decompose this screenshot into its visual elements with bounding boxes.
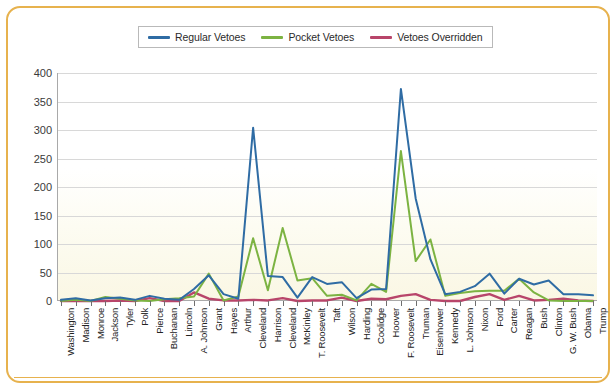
x-axis-tick: [61, 301, 62, 306]
x-axis-tick: [445, 301, 446, 306]
x-axis-tick: [386, 301, 387, 306]
series-line: [61, 151, 593, 301]
x-axis-tick: [238, 301, 239, 306]
x-axis-tick: [593, 301, 594, 306]
x-tick-label: Grant: [213, 308, 224, 331]
x-tick-label: Lincoln: [183, 308, 194, 337]
x-axis-tick: [76, 301, 77, 306]
legend-entry[interactable]: Regular Vetoes: [148, 31, 245, 43]
legend-entry[interactable]: Vetoes Overridden: [370, 31, 482, 43]
x-tick-label: Taft: [331, 308, 342, 323]
x-axis-tick: [150, 301, 151, 306]
legend-label: Regular Vetoes: [175, 31, 245, 43]
x-axis-ticks: [57, 301, 597, 307]
x-tick-label: Clinton: [553, 308, 564, 336]
x-axis-tick: [120, 301, 121, 306]
y-tick-label: 400: [6, 67, 52, 79]
x-tick-label: Hayes: [228, 308, 239, 334]
x-tick-label: Wilson: [346, 308, 357, 335]
x-axis-tick: [563, 301, 564, 306]
x-tick-label: Eisenhower: [434, 308, 445, 356]
legend-swatch-icon: [261, 36, 283, 39]
y-tick-label: 100: [6, 238, 52, 250]
y-tick-label: 0: [6, 295, 52, 307]
x-tick-label: Trump: [597, 308, 608, 334]
x-axis-tick: [312, 301, 313, 306]
y-tick-label: 350: [6, 96, 52, 108]
x-axis-tick: [105, 301, 106, 306]
x-tick-label: Hoover: [390, 308, 401, 337]
x-axis-tick: [401, 301, 402, 306]
x-axis-tick: [224, 301, 225, 306]
chart-legend: Regular VetoesPocket VetoesVetoes Overri…: [138, 26, 493, 48]
legend-label: Vetoes Overridden: [397, 31, 482, 43]
x-tick-label: T. Roosevelt: [316, 308, 327, 358]
x-axis-tick: [327, 301, 328, 306]
x-tick-label: Tyler: [124, 308, 135, 328]
x-axis-tick: [416, 301, 417, 306]
x-axis-tick: [430, 301, 431, 306]
x-tick-label: L. Johnson: [464, 308, 475, 352]
x-axis-tick: [135, 301, 136, 306]
x-axis-tick: [578, 301, 579, 306]
x-tick-label: Harrison: [272, 308, 283, 342]
x-tick-label: Cleveland: [287, 308, 298, 348]
x-tick-label: Buchanan: [168, 308, 179, 349]
y-tick-label: 150: [6, 210, 52, 222]
x-tick-label: Obama: [582, 308, 593, 338]
x-axis-tick: [371, 301, 372, 306]
x-axis-tick: [504, 301, 505, 306]
chart-figure: Regular VetoesPocket VetoesVetoes Overri…: [0, 0, 616, 389]
x-tick-label: Cleveland: [257, 308, 268, 348]
y-tick-label: 200: [6, 181, 52, 193]
x-tick-label: Reagan: [523, 308, 534, 340]
x-axis-tick: [194, 301, 195, 306]
x-tick-label: Arthur: [242, 308, 253, 333]
y-axis: 050100150200250300350400: [0, 73, 52, 301]
x-tick-label: McKinley: [301, 308, 312, 345]
x-axis-tick: [297, 301, 298, 306]
x-tick-label: Pierce: [154, 308, 165, 334]
legend-entry[interactable]: Pocket Vetoes: [261, 31, 354, 43]
x-tick-label: A. Johnson: [198, 308, 209, 354]
x-tick-label: Coolidge: [375, 308, 386, 344]
y-tick-label: 300: [6, 124, 52, 136]
x-tick-label: Monroe: [95, 308, 106, 339]
x-axis-tick: [357, 301, 358, 306]
x-axis-tick: [283, 301, 284, 306]
x-axis-tick: [475, 301, 476, 306]
x-tick-label: Washington: [65, 308, 76, 356]
legend-swatch-icon: [370, 36, 392, 39]
x-axis-tick: [519, 301, 520, 306]
x-tick-label: G. W. Bush: [567, 308, 578, 354]
x-axis-tick: [534, 301, 535, 306]
x-tick-label: Madison: [80, 308, 91, 343]
x-tick-label: Harding: [361, 308, 372, 340]
x-axis-tick: [490, 301, 491, 306]
x-axis-tick: [91, 301, 92, 306]
x-tick-label: Truman: [420, 308, 431, 339]
x-axis-tick: [253, 301, 254, 306]
x-tick-label: Carter: [508, 308, 519, 333]
footer-rule: [14, 377, 602, 378]
x-tick-label: Ford: [494, 308, 505, 327]
series-line: [61, 89, 593, 300]
x-axis-tick: [342, 301, 343, 306]
x-axis-tick: [460, 301, 461, 306]
x-tick-label: Jackson: [109, 308, 120, 341]
x-tick-label: F. Roosevelt: [405, 308, 416, 358]
x-axis-labels: WashingtonMadisonMonroeJacksonTylerPolkP…: [57, 308, 597, 384]
x-tick-label: Nixon: [479, 308, 490, 331]
x-axis-tick: [164, 301, 165, 306]
legend-label: Pocket Vetoes: [288, 31, 354, 43]
x-axis-tick: [179, 301, 180, 306]
x-axis-tick: [549, 301, 550, 306]
plot-area: [57, 73, 597, 301]
x-tick-label: Polk: [139, 308, 150, 326]
legend-swatch-icon: [148, 36, 170, 39]
x-tick-label: Bush: [538, 308, 549, 329]
x-tick-label: Kennedy: [449, 308, 460, 344]
y-tick-label: 250: [6, 153, 52, 165]
x-axis-tick: [268, 301, 269, 306]
y-tick-label: 50: [6, 267, 52, 279]
